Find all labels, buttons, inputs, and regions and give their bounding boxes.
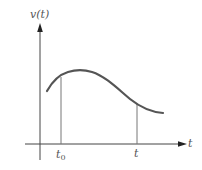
y-axis-arrow-icon <box>37 23 43 32</box>
diagram-svg <box>0 0 202 170</box>
t0-subscript: 0 <box>60 153 65 162</box>
y-axis-label: v(t) <box>30 9 49 20</box>
velocity-curve <box>47 70 163 113</box>
velocity-time-diagram: v(t) t t0 t <box>0 0 202 170</box>
x-axis-arrow-icon <box>178 141 187 147</box>
x-axis-label: t <box>188 138 192 149</box>
t0-marker-label: t0 <box>56 149 66 162</box>
t-marker-label: t <box>134 148 138 159</box>
